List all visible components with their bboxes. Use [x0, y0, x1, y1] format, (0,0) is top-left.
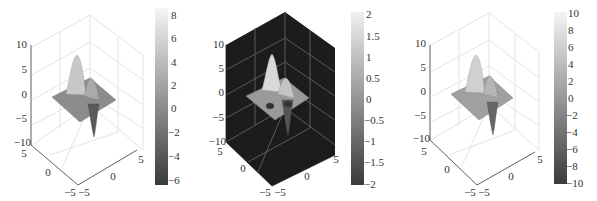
colorbar-tick: −6: [168, 174, 180, 186]
y-tick: 0: [240, 162, 246, 174]
z-tick: 5: [219, 62, 225, 74]
y-tick: −5: [259, 186, 271, 198]
colorbar-tick: −0.5: [364, 114, 384, 126]
z-tick: −5: [414, 109, 426, 121]
x-tick: 5: [333, 153, 339, 165]
colorbar-1: [155, 8, 168, 185]
surface-plot-1: 10 5 0 −5 −10 5 0 −5 −5 0 5 8 6 4 2 0 −2…: [0, 0, 200, 201]
x-tick: 5: [138, 153, 144, 165]
z-tick: 0: [421, 85, 427, 97]
surface-plot-3: 10 5 0 −5 −10 5 0 −5 −5 0 5 10 8 6 4 2 0…: [397, 0, 597, 201]
colorbar-tick: 8: [568, 24, 574, 36]
colorbar-tick: 1: [366, 51, 372, 63]
z-tick: −10: [413, 132, 431, 144]
y-tick: 0: [444, 163, 450, 175]
z-tick: 5: [421, 61, 427, 73]
y-tick: 5: [21, 147, 27, 159]
colorbar-tick: 0: [568, 92, 574, 104]
z-tick: −5: [212, 111, 224, 123]
colorbar-tick: 4: [171, 56, 177, 68]
z-tick: 0: [219, 86, 225, 98]
colorbar-tick: −1.5: [364, 156, 384, 168]
surface-3: [451, 55, 513, 135]
colorbar-tick: 0: [366, 93, 372, 105]
colorbar-2: [351, 12, 364, 185]
colorbar-tick: 10: [568, 7, 580, 19]
z-tick: 10: [16, 38, 28, 50]
y-tick: −5: [64, 186, 76, 198]
colorbar-tick: −8: [566, 160, 578, 172]
x-tick: −5: [78, 186, 90, 198]
surface-plot-2: 10 5 0 −5 −10 5 0 −5 −5 0 5 2 1.5 1 0.5 …: [200, 0, 397, 201]
z-tick: 10: [213, 38, 225, 50]
x-tick: 0: [304, 170, 310, 182]
colorbar-tick: 2: [366, 8, 372, 20]
colorbar-tick: 2: [568, 75, 574, 87]
y-tick: 5: [421, 145, 427, 157]
plot-panel-1: 10 5 0 −5 −10 5 0 −5 −5 0 5 8 6 4 2 0 −2…: [0, 0, 200, 201]
x-tick: −5: [274, 186, 286, 198]
z-tick: 5: [22, 63, 28, 75]
colorbar-tick: −2: [364, 178, 376, 190]
colorbar-tick: 0: [171, 102, 177, 114]
x-tick: 5: [537, 153, 543, 165]
colorbar-tick: −4: [168, 150, 180, 162]
colorbar-tick: 6: [171, 32, 177, 44]
y-tick: 5: [217, 145, 223, 157]
plot-panel-2: 10 5 0 −5 −10 5 0 −5 −5 0 5 2 1.5 1 0.5 …: [200, 0, 397, 201]
x-tick: −5: [478, 186, 490, 198]
x-tick: 0: [508, 170, 514, 182]
colorbar-tick: 8: [171, 9, 177, 21]
plot-panel-3: 10 5 0 −5 −10 5 0 −5 −5 0 5 10 8 6 4 2 0…: [397, 0, 597, 201]
y-tick: 0: [45, 166, 51, 178]
colorbar-tick: −2: [168, 126, 180, 138]
colorbar-tick: −2: [566, 109, 578, 121]
colorbar-tick: −10: [566, 177, 584, 189]
colorbar-3: [554, 12, 567, 184]
colorbar-tick: 1.5: [366, 30, 380, 42]
colorbar-tick: −4: [566, 126, 578, 138]
y-tick: −5: [464, 186, 476, 198]
z-tick: 0: [22, 88, 28, 100]
colorbar-tick: −6: [566, 143, 578, 155]
z-tick: 10: [415, 37, 427, 49]
colorbar-tick: 0.5: [366, 72, 380, 84]
colorbar-tick: 6: [568, 41, 574, 53]
colorbar-tick: −1: [364, 135, 376, 147]
z-tick: −5: [15, 112, 27, 124]
colorbar-tick: 2: [171, 79, 177, 91]
colorbar-tick: 4: [568, 58, 574, 70]
x-tick: 0: [110, 170, 116, 182]
